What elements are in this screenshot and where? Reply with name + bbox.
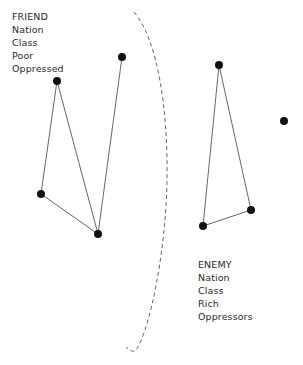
enemy-node bbox=[199, 222, 207, 230]
friend-label-line: Oppressed bbox=[12, 62, 64, 75]
friend-label-line: Poor bbox=[12, 49, 64, 62]
enemy-label-line: Nation bbox=[198, 271, 253, 284]
enemy-edge bbox=[203, 210, 251, 226]
enemy-label-line: Class bbox=[198, 284, 253, 297]
enemy-nodes bbox=[199, 61, 288, 230]
friend-edge bbox=[98, 57, 122, 234]
enemy-node-isolated bbox=[280, 117, 288, 125]
friend-nodes bbox=[37, 53, 126, 238]
friend-label-title: FRIEND bbox=[12, 10, 64, 23]
friend-edge bbox=[57, 81, 98, 234]
enemy-label: ENEMY Nation Class Rich Oppressors bbox=[198, 258, 253, 323]
friend-label-line: Class bbox=[12, 36, 64, 49]
friend-node bbox=[53, 77, 61, 85]
enemy-label-line: Oppressors bbox=[198, 310, 253, 323]
friend-node bbox=[118, 53, 126, 61]
enemy-edges bbox=[203, 65, 251, 226]
enemy-label-title: ENEMY bbox=[198, 258, 253, 271]
enemy-node bbox=[215, 61, 223, 69]
friend-node bbox=[37, 190, 45, 198]
dashed-boundary-curve bbox=[126, 12, 167, 351]
enemy-node bbox=[247, 206, 255, 214]
friend-label: FRIEND Nation Class Poor Oppressed bbox=[12, 10, 64, 75]
enemy-edge bbox=[203, 65, 219, 226]
friend-edges bbox=[41, 57, 122, 234]
friend-edge bbox=[41, 194, 98, 234]
friend-edge bbox=[41, 81, 57, 194]
enemy-label-line: Rich bbox=[198, 297, 253, 310]
friend-label-line: Nation bbox=[12, 23, 64, 36]
friend-node bbox=[94, 230, 102, 238]
enemy-edge bbox=[219, 65, 251, 210]
